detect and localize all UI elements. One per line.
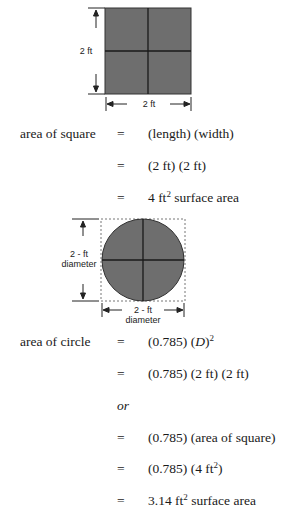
- equation-value: (0.785) (D)2: [148, 334, 214, 350]
- equation-value: (0.785) (4 ft2): [148, 461, 223, 477]
- equals-sign: =: [117, 461, 125, 477]
- equation-value: (0.785) (area of square): [148, 430, 275, 446]
- vertical-diameter-label: diameter: [61, 259, 96, 269]
- horizontal-diameter-label: 2 - ft: [134, 305, 153, 315]
- equals-sign: =: [117, 430, 125, 446]
- equals-sign: =: [117, 366, 125, 382]
- vertical-diameter-label: 2 - ft: [70, 249, 89, 259]
- or-connector: or: [117, 398, 129, 414]
- equation-label: area of circle: [20, 334, 90, 350]
- equation-value: (0.785) (2 ft) (2 ft): [148, 366, 249, 382]
- horizontal-diameter-label: diameter: [125, 315, 160, 325]
- equals-sign: =: [117, 493, 125, 509]
- equals-sign: =: [117, 334, 125, 350]
- equation-value: 3.14 ft2 surface area: [148, 493, 256, 509]
- circle-diagram: 2 - ft diameter 2 - ft diameter: [0, 0, 285, 340]
